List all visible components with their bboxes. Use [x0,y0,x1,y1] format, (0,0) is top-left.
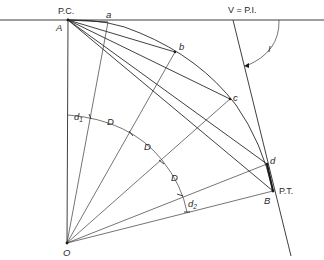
forward-tangent-line [233,20,291,256]
radius-O-a [67,22,108,243]
label-D2: D [144,141,151,152]
tick-2 [129,131,133,136]
label-B: B [264,195,271,206]
label-pt: P.T. [279,186,293,196]
label-c: c [233,92,238,103]
chord-A-b [68,20,175,52]
label-D1: D [107,116,114,127]
radius-O-B [67,191,273,243]
point-O-dot [66,242,69,245]
label-I: I [268,43,271,54]
central-angle-arc [68,115,187,212]
label-O: O [63,247,71,258]
point-B-dot [272,190,275,193]
label-d: d [270,155,276,166]
radius-AO [67,20,68,243]
label-b: b [179,41,184,52]
label-d2: d2 [188,198,197,210]
label-A: A [55,22,62,33]
curve-layout-diagram: P.C. A a b c d P.T. B O V = P.I. I d1 D … [0,0,324,260]
label-pi: V = P.I. [228,5,257,15]
radius-O-d [67,164,267,243]
chord-A-B [68,20,273,191]
deflection-angle-arc [246,20,279,66]
point-A-dot [67,19,70,22]
point-c-dot [229,98,231,100]
label-a: a [106,9,111,20]
label-d1: d1 [74,111,83,123]
point-d-dot [266,163,268,165]
point-b-dot [174,51,176,53]
label-D3: D [171,172,178,183]
radius-O-b [67,52,175,243]
radius-O-c [67,99,230,243]
label-pc: P.C. [58,6,74,16]
